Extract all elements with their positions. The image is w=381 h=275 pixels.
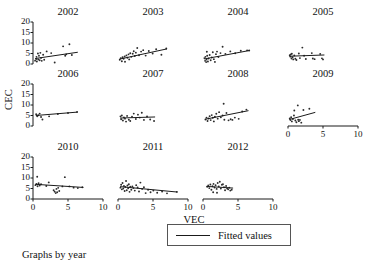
data-point xyxy=(209,184,211,186)
data-point xyxy=(219,181,221,183)
data-point xyxy=(43,59,45,61)
data-point xyxy=(36,176,38,178)
data-point xyxy=(130,189,132,191)
data-point xyxy=(216,51,218,53)
data-point xyxy=(209,54,211,56)
data-point xyxy=(166,192,168,194)
data-point xyxy=(143,119,145,121)
fitted-values-line xyxy=(120,187,177,192)
data-point xyxy=(295,59,297,61)
y-tick-label: 20 xyxy=(7,78,30,88)
data-point xyxy=(133,113,135,115)
data-point xyxy=(240,50,242,52)
data-point xyxy=(132,53,134,55)
data-point xyxy=(212,51,214,53)
data-point xyxy=(68,43,70,45)
x-tick-label: 0 xyxy=(110,202,126,212)
data-point xyxy=(138,190,140,192)
data-point xyxy=(34,60,36,62)
data-point xyxy=(42,119,44,121)
data-point xyxy=(137,114,139,116)
data-point xyxy=(215,113,217,115)
fitted-values-line xyxy=(120,117,155,118)
data-point xyxy=(128,53,130,55)
panel-plot-area xyxy=(288,84,381,142)
data-point xyxy=(141,112,143,114)
data-point xyxy=(293,115,295,117)
data-point xyxy=(206,51,208,53)
data-point xyxy=(298,53,300,55)
data-point xyxy=(135,52,137,54)
data-point xyxy=(46,50,48,52)
chart-caption: Graphs by year xyxy=(22,249,86,260)
x-tick-label: 5 xyxy=(145,202,161,212)
data-point xyxy=(125,121,127,123)
data-point xyxy=(222,46,224,48)
data-point xyxy=(210,119,212,121)
data-point xyxy=(38,182,40,184)
data-point xyxy=(42,54,44,56)
y-tick-label: 10 xyxy=(7,99,30,109)
y-tick-label: 5 xyxy=(7,48,30,58)
data-point xyxy=(227,188,229,190)
data-point xyxy=(126,115,128,117)
data-point xyxy=(64,176,66,178)
y-tick-label: 10 xyxy=(7,172,30,182)
data-point xyxy=(213,183,215,185)
data-point xyxy=(215,53,217,55)
fitted-values-line-swatch xyxy=(176,235,210,236)
data-point xyxy=(214,61,216,63)
panel-title: 2005 xyxy=(288,6,358,17)
data-point xyxy=(229,50,231,52)
data-point xyxy=(209,115,211,117)
data-point xyxy=(213,58,215,60)
data-point xyxy=(216,188,218,190)
data-point xyxy=(36,61,38,63)
y-tick-label: 0 xyxy=(7,120,30,130)
data-point xyxy=(37,53,39,55)
data-point xyxy=(218,111,220,113)
data-point xyxy=(206,55,208,57)
y-tick-label: 15 xyxy=(7,89,30,99)
data-point xyxy=(39,59,41,61)
data-point xyxy=(212,191,214,193)
data-point xyxy=(230,118,232,120)
data-point xyxy=(150,191,152,193)
data-point xyxy=(122,188,124,190)
panel-plot-area xyxy=(203,157,303,215)
data-point xyxy=(50,52,52,54)
data-point xyxy=(40,116,42,118)
data-point xyxy=(121,60,123,62)
panel-title: 2009 xyxy=(288,68,358,79)
chart-canvas: CEC 200205101520200320042005200605101520… xyxy=(0,0,381,275)
data-point xyxy=(48,115,50,117)
data-point xyxy=(56,188,58,190)
data-point xyxy=(129,120,131,122)
data-point xyxy=(48,181,50,183)
data-point xyxy=(314,58,316,60)
data-point xyxy=(57,187,59,189)
data-point xyxy=(125,54,127,56)
x-tick-label: 10 xyxy=(265,202,281,212)
data-point xyxy=(223,103,225,105)
data-point xyxy=(207,120,209,122)
data-point xyxy=(136,47,138,49)
data-point xyxy=(290,116,292,118)
y-tick-label: 5 xyxy=(7,183,30,193)
data-point xyxy=(299,57,301,59)
data-point xyxy=(220,52,222,54)
data-point xyxy=(160,54,162,56)
data-point xyxy=(41,60,43,62)
y-tick-label: 20 xyxy=(7,151,30,161)
data-point xyxy=(217,118,219,120)
data-point xyxy=(211,114,213,116)
data-point xyxy=(228,119,230,121)
data-point xyxy=(308,108,310,110)
data-point xyxy=(143,186,145,188)
data-point xyxy=(312,58,314,60)
data-point xyxy=(311,52,313,54)
y-tick-label: 15 xyxy=(7,27,30,37)
data-point xyxy=(231,189,233,191)
data-point xyxy=(322,58,324,60)
data-point xyxy=(36,56,38,58)
